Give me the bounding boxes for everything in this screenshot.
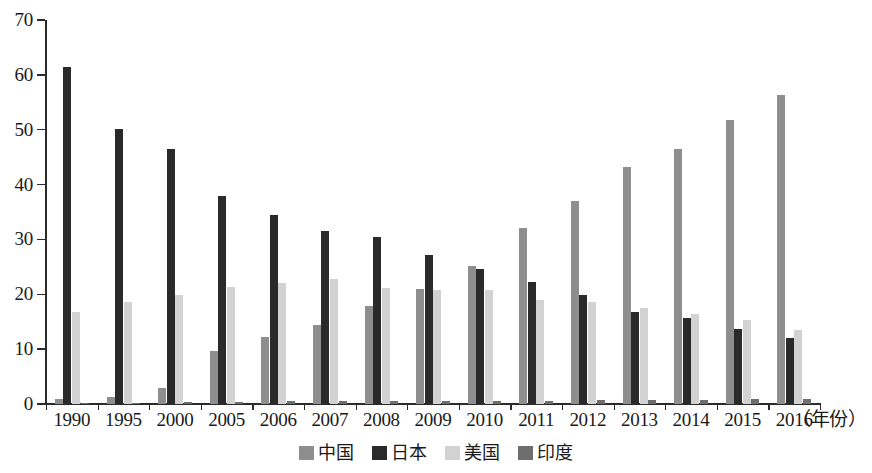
x-axis-tick-label: 2008 (353, 409, 409, 430)
x-axis-tick-label: 2005 (199, 409, 255, 430)
bar-japan (579, 295, 587, 404)
y-axis-tick-label: 0 (1, 394, 33, 413)
y-axis-tick (37, 239, 45, 240)
bar-group (468, 20, 502, 404)
bar-group (623, 20, 657, 404)
y-axis-tick-label: 20 (1, 284, 33, 303)
bar-group (726, 20, 760, 404)
x-axis-tick-label: 2006 (250, 409, 306, 430)
bar-usa (227, 287, 235, 404)
bar-china (571, 201, 579, 404)
bar-group (674, 20, 708, 404)
legend-item-china[interactable]: 中国 (299, 442, 354, 463)
y-axis-tick-label: 70 (1, 10, 33, 29)
bar-japan (734, 329, 742, 404)
legend-label: 日本 (391, 442, 427, 463)
bar-japan (218, 196, 226, 404)
bar-india (648, 400, 656, 404)
bar-india (700, 400, 708, 404)
bar-usa (640, 308, 648, 404)
bar-chart-figure: 706050403020100 199019952000200520062007… (0, 0, 872, 473)
legend-item-india[interactable]: 印度 (518, 442, 573, 463)
x-axis-tick-label: 2000 (147, 409, 203, 430)
legend-label: 中国 (318, 442, 354, 463)
y-axis-tick (37, 184, 45, 185)
x-axis-title: （年份） (792, 409, 866, 430)
bar-usa (588, 302, 596, 404)
bar-china (468, 266, 476, 404)
bar-india (132, 403, 140, 404)
bar-japan (167, 149, 175, 404)
x-axis-tick-label: 2009 (405, 409, 461, 430)
x-axis-tick-label: 2011 (508, 409, 564, 430)
bar-usa (536, 300, 544, 404)
y-axis-tick (37, 348, 45, 349)
x-axis-tick-label: 2012 (560, 409, 616, 430)
bar-usa (330, 279, 338, 404)
bar-usa (433, 290, 441, 404)
bar-group (107, 20, 141, 404)
bar-china (674, 149, 682, 404)
bar-china (261, 337, 269, 404)
bar-group (261, 20, 295, 404)
x-axis-tick-label: 2010 (457, 409, 513, 430)
bar-china (158, 388, 166, 404)
bar-india (751, 399, 759, 404)
bar-india (235, 402, 243, 404)
legend-swatch-icon (299, 446, 314, 460)
legend-swatch-icon (518, 446, 533, 460)
x-axis-tick-label: 1990 (44, 409, 100, 430)
bar-japan (63, 67, 71, 404)
bar-group (777, 20, 811, 404)
bar-india (442, 401, 450, 404)
legend-label: 美国 (464, 442, 500, 463)
x-axis-tick-label: 2013 (611, 409, 667, 430)
bar-japan (786, 338, 794, 404)
legend: 中国日本美国印度 (0, 442, 872, 463)
bar-usa (691, 314, 699, 404)
y-axis-tick (37, 294, 45, 295)
bar-japan (528, 282, 536, 404)
y-axis-tick-label: 40 (1, 175, 33, 194)
bar-usa (278, 283, 286, 404)
y-axis-tick-label: 60 (1, 65, 33, 84)
bar-group (365, 20, 399, 404)
bar-india (81, 403, 89, 404)
bar-india (184, 402, 192, 404)
x-axis-tick-label: 2015 (715, 409, 771, 430)
bar-india (493, 401, 501, 404)
bar-japan (631, 312, 639, 404)
bar-group (55, 20, 89, 404)
legend-item-japan[interactable]: 日本 (372, 442, 427, 463)
plot-area (46, 20, 820, 404)
bar-china (416, 289, 424, 404)
bar-group (519, 20, 553, 404)
bar-india (803, 399, 811, 404)
bar-japan (270, 215, 278, 404)
bar-usa (382, 288, 390, 404)
bar-group (571, 20, 605, 404)
bar-china (365, 306, 373, 404)
bar-india (545, 401, 553, 404)
bar-india (287, 401, 295, 404)
legend-label: 印度 (537, 442, 573, 463)
bar-china (726, 120, 734, 404)
y-axis-tick (37, 19, 45, 20)
bar-japan (321, 231, 329, 404)
bar-china (623, 167, 631, 404)
x-axis-tick-label: 1995 (95, 409, 151, 430)
legend-item-usa[interactable]: 美国 (445, 442, 500, 463)
bar-china (777, 95, 785, 404)
legend-swatch-icon (445, 446, 460, 460)
bar-group (210, 20, 244, 404)
bar-usa (175, 295, 183, 404)
bar-china (519, 228, 527, 404)
bar-usa (124, 302, 132, 404)
bar-india (597, 400, 605, 404)
y-axis-tick (37, 74, 45, 75)
y-axis-tick (37, 403, 45, 404)
bar-japan (115, 129, 123, 404)
legend-swatch-icon (372, 446, 387, 460)
bar-group (313, 20, 347, 404)
bar-china (107, 397, 115, 404)
